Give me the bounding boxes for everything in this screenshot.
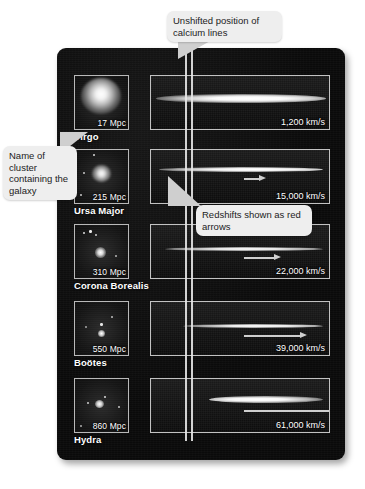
cluster-name-label: Hydra (74, 434, 101, 445)
galaxy-blob (81, 78, 121, 114)
distance-label: 17 Mpc (75, 118, 126, 128)
star-speck (118, 406, 120, 408)
distance-label: 860 Mpc (75, 421, 126, 431)
spectrum-streak (165, 247, 323, 251)
galaxy-thumbnail: 17 Mpc (74, 75, 129, 130)
arrow-shaft (244, 410, 330, 412)
galaxy-blob (92, 165, 111, 182)
galaxy-thumbnail: 860 Mpc (74, 378, 129, 433)
arrow-shaft (244, 257, 274, 259)
distance-label: 310 Mpc (75, 267, 126, 277)
redshift-arrow (244, 408, 330, 413)
velocity-label: 61,000 km/s (276, 420, 325, 430)
spectrum-panel: 1,200 km/s (150, 75, 330, 130)
redshift-arrow (244, 255, 281, 260)
callout-redshift-arrows: Redshifts shown as red arrows (196, 205, 312, 236)
galaxy-thumbnail: 310 Mpc (74, 224, 129, 279)
spectrum-streak (209, 396, 323, 403)
spectrum-panel: 39,000 km/s (150, 301, 330, 356)
star-speck (83, 232, 85, 234)
cluster-name-label: Ursa Major (74, 205, 124, 216)
arrow-head (300, 332, 307, 338)
spectrum-streak (159, 167, 323, 172)
cluster-name-label: Corona Borealis (74, 280, 149, 291)
callout-cluster-name: Name of cluster containing the galaxy (3, 146, 77, 200)
spectrum-streak (183, 324, 323, 328)
star-speck (100, 323, 103, 326)
velocity-label: 1,200 km/s (281, 117, 325, 127)
galaxy-blob (95, 400, 104, 408)
star-speck (93, 154, 95, 156)
star-speck (89, 230, 92, 233)
galaxy-blob (95, 247, 106, 258)
star-speck (115, 255, 117, 257)
spectrum-streak (156, 94, 326, 103)
arrow-head (259, 175, 266, 181)
star-speck (95, 234, 97, 236)
redshift-arrow (244, 333, 307, 338)
redshift-arrow (244, 176, 266, 181)
velocity-label: 22,000 km/s (276, 266, 325, 276)
figure-panel: 17 Mpc Virgo 1,200 km/s 215 Mpc Ursa Maj… (57, 48, 345, 460)
star-speck (111, 316, 113, 318)
star-speck (83, 172, 85, 174)
velocity-label: 39,000 km/s (276, 343, 325, 353)
distance-label: 550 Mpc (75, 344, 126, 354)
callout-tail-calcium (178, 40, 212, 59)
arrow-shaft (244, 335, 300, 337)
star-speck (87, 402, 89, 404)
callout-calcium-lines: Unshifted position of calcium lines (167, 11, 282, 42)
spectrum-panel: 61,000 km/s (150, 378, 330, 433)
arrow-shaft (244, 178, 259, 180)
distance-label: 215 Mpc (75, 192, 126, 202)
velocity-label: 15,000 km/s (276, 191, 325, 201)
galaxy-thumbnail: 215 Mpc (74, 149, 129, 204)
galaxy-thumbnail: 550 Mpc (74, 301, 129, 356)
cluster-name-label: Boötes (74, 357, 107, 368)
galaxy-blob (98, 330, 105, 337)
star-speck (85, 326, 87, 328)
arrow-head (274, 254, 281, 260)
star-speck (104, 396, 106, 398)
callout-tail-redshift (168, 176, 201, 206)
